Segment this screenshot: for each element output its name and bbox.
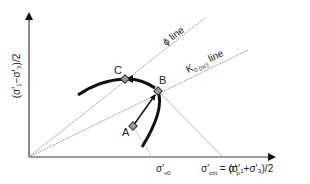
guide-line-crit (158, 91, 223, 157)
point-a-label: A (122, 126, 130, 138)
k0-line (29, 50, 248, 157)
point-c-label: C (114, 64, 122, 76)
stress-path-diagram: C B A ϕ line K0 (nc) line (σ'₁−σ'₃)/2 (σ… (0, 0, 310, 184)
stress-path-a-b (133, 95, 155, 126)
svg-text:(σ'₁−σ'₃)/2: (σ'₁−σ'₃)/2 (11, 53, 22, 98)
tick-sigma-v0: σ'v0 (156, 163, 171, 176)
guide-line-v0 (133, 126, 152, 157)
tick-sigma-crit: σ'crit = σ'p (201, 163, 241, 176)
yield-curve-upper (127, 79, 155, 88)
k0-line-label: K0 (nc) line (184, 47, 226, 77)
point-c-marker (121, 75, 129, 83)
yield-curve-lower (142, 91, 160, 147)
svg-text:K0 (nc) line: K0 (nc) line (184, 47, 226, 77)
y-axis-label: (σ'₁−σ'₃)/2 (11, 53, 22, 98)
point-b-label: B (159, 74, 166, 86)
